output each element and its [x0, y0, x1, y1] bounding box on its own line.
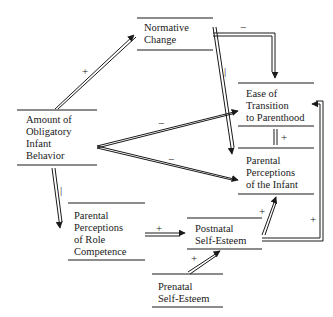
node-text: of Role	[74, 234, 126, 246]
sign-postnatal-ease: +	[310, 214, 316, 225]
node-text: Behavior	[26, 150, 72, 162]
node-text: of the Infant	[246, 179, 298, 191]
sign-ease-infant: +	[281, 132, 287, 143]
node-text: Obligatory	[26, 126, 72, 138]
node-perceptions-of-role-competence: Parental Perceptions of Role Competence	[74, 210, 126, 258]
sign-normative-infant: |	[224, 66, 226, 77]
sign-prenatal-postnatal: +	[191, 253, 197, 264]
sign-postnatal-infant: +	[259, 206, 265, 217]
node-text: Competence	[74, 246, 126, 258]
node-perceptions-of-infant: Parental Perceptions of the Infant	[246, 155, 298, 191]
node-text: Self-Esteem	[195, 235, 246, 247]
node-text: to Parenthood	[246, 112, 305, 124]
node-postnatal-self-esteem: Postnatal Self-Esteem	[195, 223, 246, 247]
node-amount-obligatory-infant-behavior: Amount of Obligatory Infant Behavior	[26, 114, 72, 162]
node-text: Parental	[74, 210, 126, 222]
node-prenatal-self-esteem: Prenatal Self-Esteem	[158, 281, 209, 305]
sign-normative-ease: −	[240, 22, 246, 33]
sign-amount-normative: +	[82, 66, 88, 77]
node-text: Ease of	[246, 88, 305, 100]
node-text: Prenatal	[158, 281, 209, 293]
node-text: Normative	[144, 22, 189, 34]
node-text: Transition	[246, 100, 305, 112]
node-text: Postnatal	[195, 223, 246, 235]
node-normative-change: Normative Change	[144, 22, 189, 46]
node-text: Perceptions	[74, 222, 126, 234]
node-text: Perceptions	[246, 167, 298, 179]
node-text: Infant	[26, 138, 72, 150]
sign-role-postnatal: +	[156, 223, 162, 234]
sign-amount-infant: −	[168, 154, 174, 165]
node-text: Self-Esteem	[158, 293, 209, 305]
node-ease-of-transition: Ease of Transition to Parenthood	[246, 88, 305, 124]
edge-amount-ease	[97, 111, 238, 146]
edge-amount-normative	[55, 35, 134, 109]
node-text: Parental	[246, 155, 298, 167]
node-text: Change	[144, 34, 189, 46]
node-text: Amount of	[26, 114, 72, 126]
sign-amount-role: |	[60, 185, 62, 196]
sign-amount-ease: −	[158, 118, 164, 129]
edge-normative-infant	[213, 27, 232, 154]
